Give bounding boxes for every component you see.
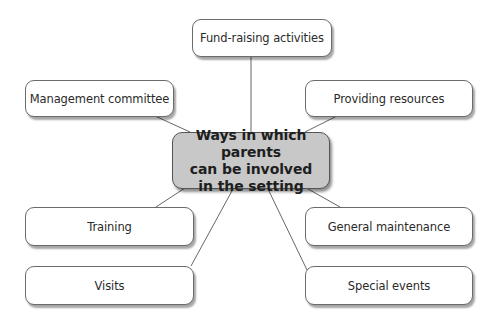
node-visits: Visits [25, 266, 194, 305]
node-label: Special events [348, 279, 430, 293]
node-label: Management committee [30, 92, 170, 106]
center-line-2: can be involved [190, 161, 312, 178]
node-maintenance: General maintenance [305, 207, 473, 246]
connector-training [156, 188, 185, 207]
connector-maintenance [308, 189, 340, 207]
center-line-3: in the setting [198, 178, 303, 195]
node-label: Training [87, 220, 132, 234]
node-resources: Providing resources [305, 80, 473, 117]
center-line-1: Ways in which parents [177, 127, 325, 161]
node-label: Visits [95, 279, 125, 293]
node-management: Management committee [25, 80, 174, 117]
node-training: Training [25, 207, 194, 246]
node-fundraising: Fund-raising activities [192, 19, 332, 57]
connector-visits [191, 189, 233, 266]
center-node: Ways in which parents can be involved in… [172, 132, 330, 189]
node-label: General maintenance [328, 220, 450, 234]
node-label: Providing resources [334, 92, 445, 106]
node-label: Fund-raising activities [200, 31, 324, 45]
node-events: Special events [305, 266, 473, 305]
connector-events [268, 189, 307, 270]
